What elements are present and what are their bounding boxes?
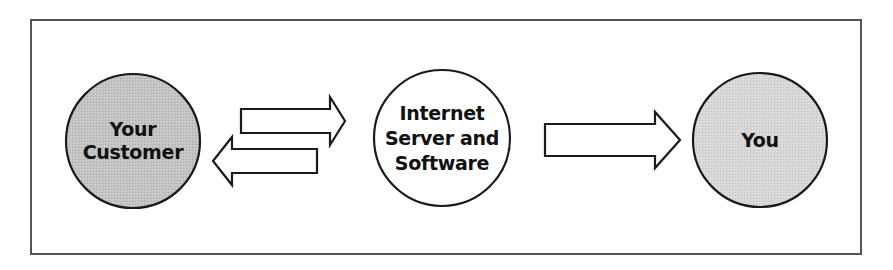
arrow-left-to-customer: [213, 137, 317, 185]
you-label: You: [693, 124, 827, 156]
server-label-line-1: Internet: [399, 101, 484, 126]
arrow-right-to-you: [545, 112, 680, 168]
customer-label-line-2: Customer: [83, 141, 184, 164]
server-label-line-3: Software: [395, 151, 489, 176]
server-label: Internet Server and Software: [374, 92, 510, 184]
customer-label-line-1: Your: [110, 118, 157, 141]
you-label-text: You: [741, 129, 779, 152]
server-label-line-2: Server and: [385, 126, 499, 151]
arrow-right-to-server: [241, 97, 345, 145]
customer-label: Your Customer: [66, 105, 200, 177]
